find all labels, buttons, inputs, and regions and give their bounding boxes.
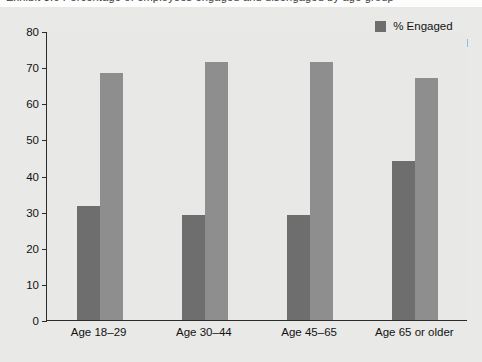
bar-group — [287, 31, 333, 320]
bar-group — [77, 31, 123, 320]
plot-area: 01020304050607080 — [46, 32, 467, 321]
bar-engaged — [182, 215, 205, 320]
y-axis-tick — [42, 32, 47, 33]
bar-disengaged — [100, 73, 123, 320]
y-axis-label: 20 — [26, 243, 39, 255]
x-axis-label: Age 30–44 — [176, 326, 232, 338]
bar-engaged — [77, 206, 100, 320]
bar-disengaged — [310, 62, 333, 320]
y-axis-tick — [42, 104, 47, 105]
y-axis-label: 70 — [26, 62, 39, 74]
y-axis-tick — [42, 140, 47, 141]
chart-title-text: Exhibit 3.6 Percentage of employees enga… — [6, 0, 394, 3]
bar-engaged — [287, 215, 310, 320]
bar-group — [392, 31, 438, 320]
y-axis-label: 0 — [33, 315, 39, 327]
y-axis-tick — [42, 213, 47, 214]
bar-disengaged — [415, 78, 438, 320]
bar-group — [182, 31, 228, 320]
plot-inner: 01020304050607080 — [47, 32, 467, 320]
y-axis-tick — [42, 285, 47, 286]
y-axis-label: 10 — [26, 279, 39, 291]
x-axis-label: Age 18–29 — [71, 326, 127, 338]
legend-swatch-engaged — [375, 21, 386, 32]
chart-title-cropped: Exhibit 3.6 Percentage of employees enga… — [0, 0, 482, 7]
y-axis-label: 50 — [26, 134, 39, 146]
bar-engaged — [392, 161, 415, 320]
y-axis-tick — [42, 249, 47, 250]
y-axis-tick — [42, 321, 47, 322]
y-axis-label: 30 — [26, 207, 39, 219]
bar-chart: Exhibit 3.6 Percentage of employees enga… — [0, 0, 482, 362]
y-axis-tick — [42, 68, 47, 69]
bar-disengaged — [205, 62, 228, 320]
y-axis-label: 40 — [26, 171, 39, 183]
y-axis-label: 80 — [26, 26, 39, 38]
y-axis-tick — [42, 177, 47, 178]
x-axis-label: Age 65 or older — [375, 326, 454, 338]
y-axis-label: 60 — [26, 98, 39, 110]
x-axis-label: Age 45–65 — [281, 326, 337, 338]
